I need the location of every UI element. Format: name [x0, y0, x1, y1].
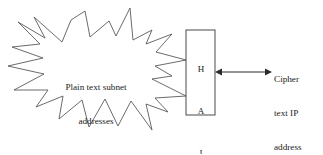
cipher-label-line-1: Cipher: [274, 74, 323, 85]
cipher-text-ip-address-label: Cipher text IP address: [274, 52, 323, 154]
cipher-connection-arrow: [215, 69, 272, 76]
plain-text-subnet-label-line-1: Plain text subnet: [38, 82, 154, 93]
haipe-letter-h: H: [186, 63, 216, 77]
diagram-canvas: Plain text subnet addresses H A I P E Ci…: [0, 0, 323, 154]
plain-text-subnet-label: Plain text subnet addresses: [38, 60, 154, 150]
haipe-device-label: H A I P E: [186, 35, 216, 154]
cipher-label-line-2: text IP: [274, 108, 323, 119]
haipe-letter-a: A: [186, 105, 216, 119]
haipe-letter-i: I: [186, 147, 216, 155]
cipher-label-line-3: address: [274, 142, 323, 153]
arrow-head-right: [265, 69, 272, 76]
plain-text-subnet-label-line-2: addresses: [38, 116, 154, 127]
arrow-head-left: [215, 69, 222, 76]
